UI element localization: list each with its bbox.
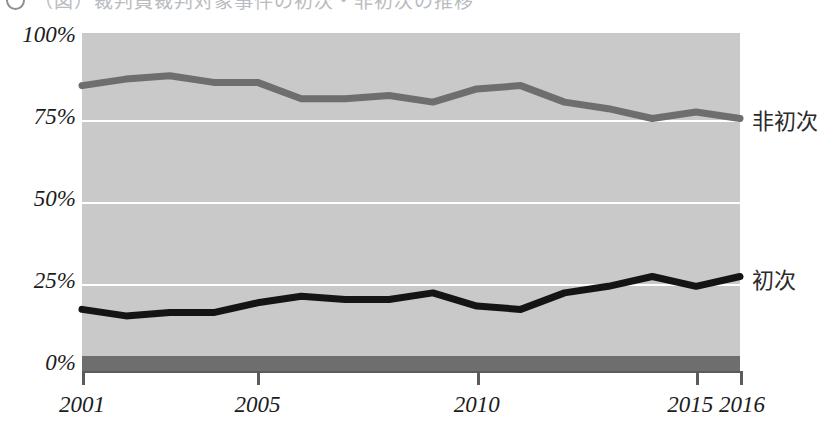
- series-line-non-first: [82, 76, 740, 119]
- y-tick-label-100: 100%: [2, 22, 76, 48]
- y-axis-labels: 100% 75% 50% 25% 0%: [0, 0, 76, 445]
- y-tick-label-0: 0%: [2, 350, 76, 376]
- y-tick-label-75: 75%: [2, 104, 76, 130]
- y-tick-label-50: 50%: [2, 186, 76, 212]
- y-tick-label-25: 25%: [2, 268, 76, 294]
- x-tick-2016: [740, 371, 743, 385]
- series-label-non-first: 非初次: [752, 103, 818, 135]
- series-layer: [82, 33, 740, 362]
- page-title: （図）裁判員裁判対象事件の初次・非初次の推移: [34, 0, 474, 13]
- series-line-first: [82, 277, 740, 316]
- x-tick-label-2015: 2015: [667, 392, 713, 418]
- x-tick-2001: [82, 371, 85, 385]
- x-tick-label-2016: 2016: [719, 392, 765, 418]
- x-tick-label-2005: 2005: [234, 392, 280, 418]
- series-label-first: 初次: [752, 262, 796, 294]
- x-tick-2005: [257, 371, 260, 385]
- x-tick-label-2001: 2001: [59, 392, 105, 418]
- x-tick-2015: [696, 371, 699, 385]
- chart-title-strip: （図）裁判員裁判対象事件の初次・非初次の推移: [0, 0, 834, 16]
- x-axis-line: [82, 371, 741, 373]
- chart-page: （図）裁判員裁判対象事件の初次・非初次の推移 100% 75% 50% 25% …: [0, 0, 834, 445]
- x-tick-2010: [477, 371, 480, 385]
- x-tick-label-2010: 2010: [454, 392, 500, 418]
